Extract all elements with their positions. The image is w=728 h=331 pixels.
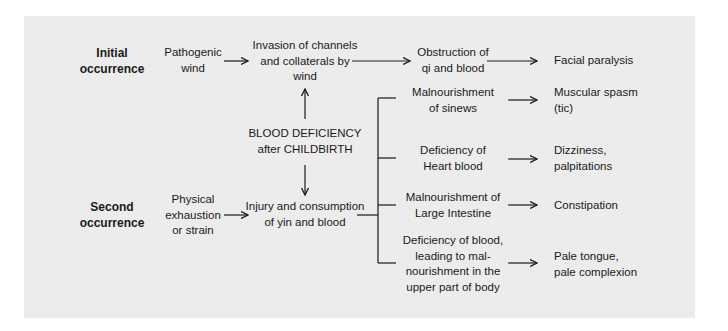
branch-mechanism-1: Malnourishment of sinews: [398, 85, 508, 116]
stage-label-initial: Initial occurrence: [72, 46, 152, 77]
node-facial-paralysis: Facial paralysis: [554, 53, 664, 69]
branch-outcome-1: Muscular spasm (tic): [554, 85, 674, 116]
node-physical-exhaustion: Physical exhaustion or strain: [163, 192, 223, 239]
branch-mechanism-2: Deficiency of Heart blood: [398, 143, 508, 174]
node-injury-yin-blood: Injury and consumption of yin and blood: [245, 199, 365, 230]
node-invasion-channels: Invasion of channels and collaterals by …: [250, 38, 360, 85]
node-pathogenic-wind: Pathogenic wind: [163, 45, 223, 76]
node-obstruction-qi-blood: Obstruction of qi and blood: [408, 45, 498, 76]
branch-outcome-2: Dizziness, palpitations: [554, 143, 674, 174]
branch-mechanism-4: Deficiency of blood, leading to mal- nou…: [398, 233, 508, 295]
node-blood-deficiency-root: BLOOD DEFICIENCY after CHILDBIRTH: [245, 126, 365, 157]
branch-outcome-4: Pale tongue, pale complexion: [554, 249, 674, 280]
branch-outcome-3: Constipation: [554, 198, 674, 214]
stage-label-second: Second occurrence: [72, 200, 152, 231]
branch-mechanism-3: Malnourishment of Large Intestine: [398, 190, 508, 221]
